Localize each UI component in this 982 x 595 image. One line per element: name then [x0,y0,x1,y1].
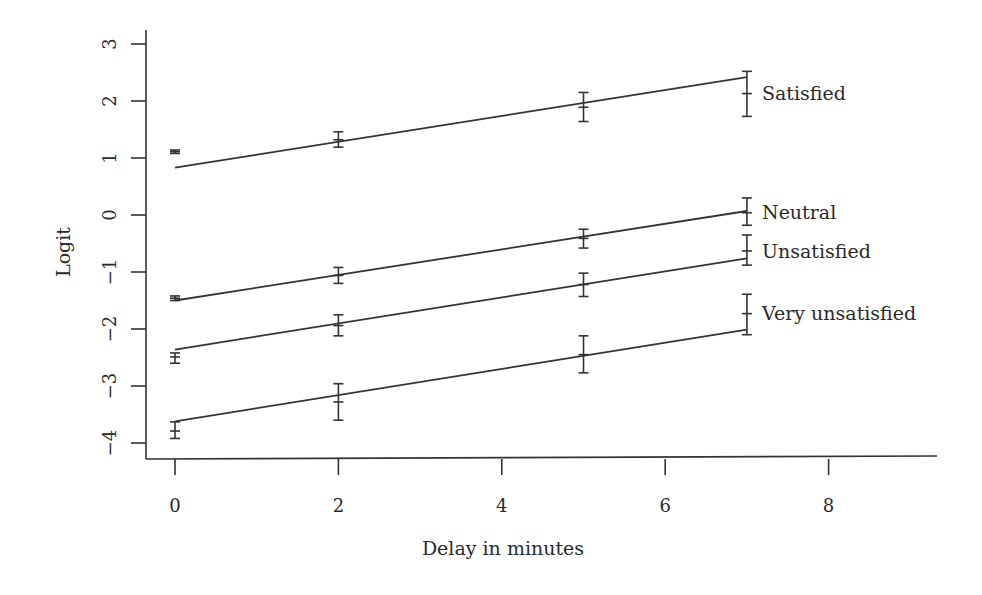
error-bar [333,132,343,147]
error-bar [333,267,343,283]
error-bar [579,336,589,373]
y-tick-label: 0 [99,209,120,220]
y-tick-label: 3 [99,38,120,49]
logit-chart: −4−3−2−1012302468 SatisfiedNeutralUnsati… [0,0,982,595]
y-tick-label: 2 [99,95,120,106]
series-label: Very unsatisfied [761,302,916,324]
series-very-unsatisfied: Very unsatisfied [170,294,916,438]
series-label: Unsatisfied [762,240,871,262]
y-tick-label: 1 [99,152,120,163]
error-bar [170,150,180,153]
series-label: Satisfied [762,82,846,104]
error-bar [742,294,752,334]
fit-line [175,77,747,168]
error-bar [170,422,180,439]
series-label: Neutral [762,201,836,223]
error-bar [742,235,752,265]
error-bar [333,384,343,420]
x-tick-label: 4 [496,495,507,516]
error-bar [579,229,589,248]
error-bar [333,315,343,336]
y-tick-label: −2 [99,316,120,343]
error-bar [579,92,589,121]
fit-line [175,211,747,300]
fit-line [175,258,747,349]
error-bar [170,296,180,301]
series-layer: SatisfiedNeutralUnsatisfiedVery unsatisf… [170,71,916,438]
x-tick-label: 2 [333,495,344,516]
x-axis-title: Delay in minutes [422,537,584,559]
x-tick-label: 0 [169,495,180,516]
x-tick-label: 8 [823,495,834,516]
y-tick-label: −4 [99,430,120,457]
series-neutral: Neutral [170,198,836,301]
y-axis-title: Logit [52,227,74,277]
x-tick-label: 6 [659,495,670,516]
series-unsatisfied: Unsatisfied [170,235,871,363]
fit-line [175,330,747,422]
series-satisfied: Satisfied [170,71,846,167]
x-axis-line [146,456,937,459]
y-tick-label: −3 [99,373,120,400]
y-tick-label: −1 [99,259,120,286]
error-bar [579,273,589,296]
error-bar [170,353,180,363]
